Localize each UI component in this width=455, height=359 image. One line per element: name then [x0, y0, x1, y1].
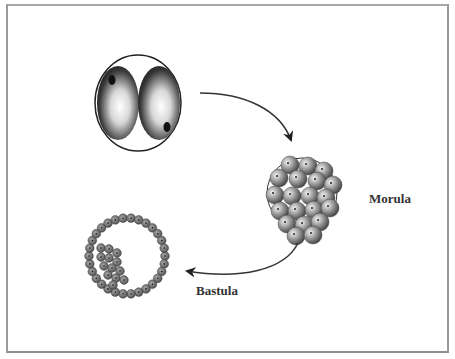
arrow-two-cell-to-morula	[200, 93, 291, 140]
arrow-morula-to-blastula	[187, 243, 298, 274]
embryo-diagram	[0, 0, 455, 359]
two-cell-stage	[95, 55, 181, 151]
nucleus-icon	[164, 122, 171, 132]
nucleus-icon	[109, 75, 116, 85]
blastula-stage	[85, 214, 170, 298]
morula-label: Morula	[369, 191, 411, 207]
morula-stage	[266, 156, 342, 245]
blastula-label: Bastula	[196, 283, 238, 299]
